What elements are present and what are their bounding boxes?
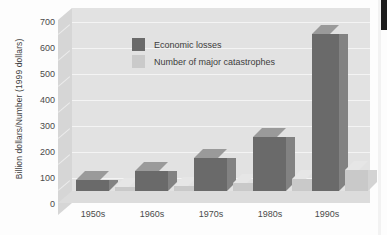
- y-tick-700: 700: [24, 18, 55, 27]
- y-axis-title: Billion dollars/Number (1999 dollars): [14, 16, 24, 202]
- legend-swatch-icon-economic-losses: [132, 38, 145, 51]
- y-tick-300: 300: [24, 122, 55, 131]
- legend-item-catastrophes: Number of major catastrophes: [132, 53, 275, 70]
- bar-economic-losses-1980s: [253, 137, 286, 191]
- x-tick-1970s: 1970s: [180, 209, 242, 219]
- bar-economic-losses-1970s: [194, 158, 227, 191]
- x-tick-1980s: 1980s: [239, 209, 301, 219]
- y-tick-0: 0: [24, 200, 55, 209]
- x-tick-1960s: 1960s: [121, 209, 183, 219]
- bar-side: [368, 170, 377, 191]
- legend-label-catastrophes: Number of major catastrophes: [154, 57, 275, 67]
- bar-face: [345, 170, 368, 191]
- plot-area: Economic losses Number of major catastro…: [58, 8, 370, 203]
- y-tick-500: 500: [24, 70, 55, 79]
- legend-item-economic-losses: Economic losses: [132, 36, 275, 53]
- bar-face: [135, 171, 168, 191]
- x-tick-1990s: 1990s: [296, 209, 358, 219]
- page-edge-artifact: [381, 0, 387, 30]
- y-tick-400: 400: [24, 96, 55, 105]
- bar-side: [339, 34, 348, 191]
- bar-economic-losses-1950s: [76, 180, 109, 191]
- x-tick-1950s: 1950s: [62, 209, 124, 219]
- y-tick-600: 600: [24, 44, 55, 53]
- y-tick-200: 200: [24, 148, 55, 157]
- bar-face: [253, 137, 286, 191]
- bar-face: [76, 180, 109, 191]
- bar-face: [312, 34, 339, 191]
- chart-figure: Billion dollars/Number (1999 dollars) 70…: [0, 0, 387, 235]
- chart-legend: Economic losses Number of major catastro…: [132, 36, 275, 70]
- bar-catastrophes-1990s: [345, 170, 368, 191]
- bar-economic-losses-1960s: [135, 171, 168, 191]
- bar-economic-losses-1990s: [312, 34, 339, 191]
- page-margin: [378, 0, 381, 235]
- y-axis-tick-labels: 700 600 500 400 300 200 100 0: [24, 0, 55, 235]
- y-tick-100: 100: [24, 174, 55, 183]
- bar-face: [194, 158, 227, 191]
- plot-floor: [58, 191, 370, 203]
- legend-swatch-icon-catastrophes: [132, 55, 145, 68]
- legend-label-economic-losses: Economic losses: [154, 40, 222, 50]
- gridline-700: [72, 22, 370, 23]
